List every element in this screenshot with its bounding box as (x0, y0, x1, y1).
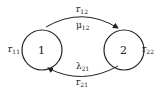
edge-2-to-1-param-label: λ21 (76, 61, 89, 72)
state-2-label: 2 (120, 44, 127, 57)
edge-1-to-2-rate-label: r12 (76, 4, 88, 15)
state-1-label: 1 (38, 44, 45, 57)
edge-2-to-1-rate-label: r21 (76, 77, 88, 88)
state-2-self-rate-label: r22 (142, 44, 154, 55)
state-diagram: 1 2 r12 μ12 λ21 r21 r11 r22 (0, 0, 162, 93)
state-1-self-rate-label: r11 (8, 44, 20, 55)
edge-1-to-2-param-label: μ12 (76, 20, 90, 31)
